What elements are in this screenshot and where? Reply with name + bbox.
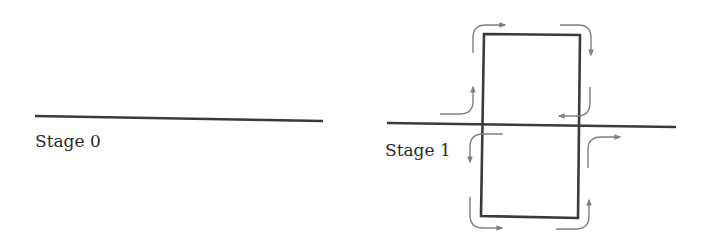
- flow-arrow-left-upper-icon: [440, 87, 473, 114]
- stage-1-group: Stage 1: [385, 25, 676, 229]
- stage-1-label: Stage 1: [385, 140, 451, 160]
- flow-arrow-right-lower-icon: [588, 137, 620, 168]
- flow-arrow-bottom-right-icon: [556, 200, 589, 229]
- flow-arrow-right-upper-icon: [559, 87, 590, 116]
- stage-0-line: [35, 116, 323, 121]
- flow-arrow-top-left-icon: [473, 25, 505, 53]
- stage-1-line: [387, 123, 676, 127]
- flow-arrow-top-right-icon: [560, 25, 591, 55]
- stage-0-label: Stage 0: [35, 131, 101, 151]
- stage-0-group: Stage 0: [35, 116, 323, 151]
- flow-arrow-bottom-left-icon: [470, 197, 502, 228]
- flow-arrow-left-lower-icon: [470, 134, 503, 162]
- diagram-canvas: Stage 0 Stage 1: [0, 0, 702, 241]
